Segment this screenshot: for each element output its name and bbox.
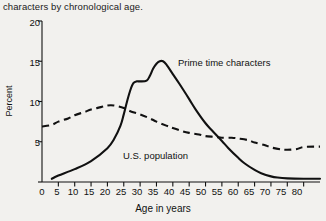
x-tick-marks — [58, 182, 303, 187]
line-prime-time-characters — [52, 61, 320, 179]
line-us-population — [42, 105, 320, 150]
chart-plot-area: Percent Age in years 20 15 10 5 0 5 10 1… — [0, 0, 326, 221]
chart-svg — [0, 0, 326, 221]
y-tick-marks — [38, 21, 42, 182]
axes-group — [38, 21, 320, 187]
